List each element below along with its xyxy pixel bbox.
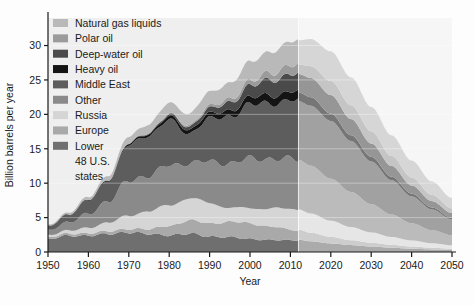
y-tick-label: 25	[29, 74, 41, 86]
x-tick-label: 2000	[238, 259, 262, 271]
legend-label[interactable]: Heavy oil	[75, 63, 118, 75]
legend-swatch	[53, 126, 68, 134]
x-tick-label: 1970	[117, 259, 141, 271]
y-tick-label: 5	[35, 211, 41, 223]
y-tick-label: 0	[35, 246, 41, 258]
legend-swatch	[53, 19, 68, 27]
legend-swatch	[53, 34, 68, 42]
projection-overlay	[298, 18, 452, 252]
y-tick-label: 30	[29, 39, 41, 51]
legend-label[interactable]: states	[75, 170, 103, 182]
y-axis-title: Billion barrels per year	[3, 82, 15, 187]
legend-swatch	[53, 96, 68, 104]
legend-label[interactable]: Russia	[75, 109, 107, 121]
legend-swatch	[53, 50, 68, 58]
x-tick-label: 2050	[440, 259, 464, 271]
legend-swatch	[53, 65, 68, 73]
legend-label[interactable]: 48 U.S.	[75, 155, 110, 167]
legend-label[interactable]: Other	[75, 94, 102, 106]
legend-swatch	[53, 142, 68, 150]
x-tick-label: 1990	[198, 259, 222, 271]
legend-label[interactable]: Europe	[75, 124, 109, 136]
x-tick-label: 2030	[360, 259, 384, 271]
x-tick-label: 1980	[158, 259, 182, 271]
chart-container: 0510152025301950196019701980199020002010…	[0, 0, 475, 305]
x-tick-label: 2020	[319, 259, 343, 271]
legend-label[interactable]: Deep-water oil	[75, 48, 143, 60]
x-tick-label: 2010	[279, 259, 303, 271]
legend-swatch	[53, 80, 68, 88]
legend-label[interactable]: Lower	[75, 140, 104, 152]
x-tick-label: 1960	[77, 259, 101, 271]
legend-label[interactable]: Polar oil	[75, 32, 113, 44]
legend-label[interactable]: Natural gas liquids	[75, 17, 161, 29]
legend-swatch	[53, 111, 68, 119]
y-tick-label: 15	[29, 143, 41, 155]
x-axis-title: Year	[239, 275, 261, 287]
y-tick-label: 10	[29, 177, 41, 189]
x-tick-label: 1950	[36, 259, 60, 271]
x-tick-label: 2040	[400, 259, 424, 271]
legend-label[interactable]: Middle East	[75, 78, 130, 90]
y-tick-label: 20	[29, 108, 41, 120]
stacked-area-chart: 0510152025301950196019701980199020002010…	[0, 0, 475, 305]
